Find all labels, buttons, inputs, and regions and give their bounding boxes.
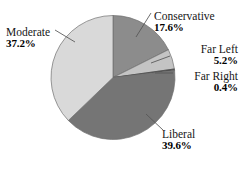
pie-label-liberal-value: 39.6% xyxy=(162,140,195,152)
pie-slices xyxy=(51,15,175,139)
pie-chart-figure: Moderate 37.2% Conservative 17.6% Far Le… xyxy=(0,0,243,170)
pie-label-conservative: Conservative 17.6% xyxy=(154,10,215,34)
pie-label-moderate: Moderate 37.2% xyxy=(6,26,50,50)
pie-label-far-right-value: 0.4% xyxy=(194,82,238,94)
pie-label-far-left-value: 5.2% xyxy=(201,55,238,67)
pie-label-moderate-value: 37.2% xyxy=(6,38,50,50)
pie-label-conservative-value: 17.6% xyxy=(154,22,215,34)
pie-label-liberal: Liberal 39.6% xyxy=(162,128,195,152)
pie-label-far-right: Far Right 0.4% xyxy=(194,70,238,94)
pie-label-far-left: Far Left 5.2% xyxy=(201,43,238,67)
